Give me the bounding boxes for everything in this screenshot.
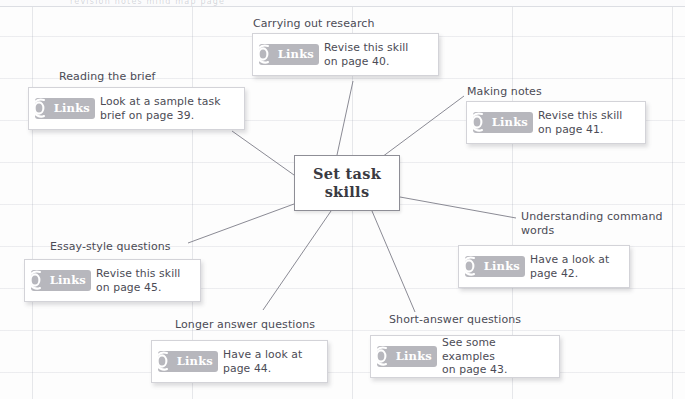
links-badge: Links xyxy=(158,351,218,372)
branch-label-understanding-command-words: Understanding command words xyxy=(521,210,663,238)
branch-label-longer-answer-questions: Longer answer questions xyxy=(175,318,315,332)
links-badge-word: Links xyxy=(492,117,528,129)
links-badge: Links xyxy=(473,112,533,133)
link-card-short-answer-questions[interactable]: Links See some examples on page 43. xyxy=(370,335,560,378)
connector-making-notes xyxy=(382,96,464,157)
links-badge-word: Links xyxy=(278,49,314,61)
mindmap-canvas: revision notes mind map page Set task sk… xyxy=(0,0,685,399)
link-card-longer-answer-questions[interactable]: Links Have a look at page 44. xyxy=(151,340,328,383)
links-badge-word: Links xyxy=(177,356,213,368)
link-card-carrying-out-research[interactable]: Links Revise this skill on page 40. xyxy=(252,33,439,76)
link-card-text: See some examples on page 43. xyxy=(442,336,550,377)
chain-link-icon xyxy=(466,110,492,135)
links-badge: Links xyxy=(31,270,91,291)
branch-label-short-answer-questions: Short-answer questions xyxy=(389,313,521,327)
links-badge: Links xyxy=(465,256,525,277)
central-node[interactable]: Set task skills xyxy=(294,155,400,211)
link-card-text: Look at a sample task brief on page 39. xyxy=(100,95,221,123)
central-node-label: Set task skills xyxy=(295,165,399,201)
connector-understanding-command xyxy=(400,197,516,218)
connector-essay-style-questions xyxy=(188,204,294,243)
links-badge-word: Links xyxy=(396,351,432,363)
connector-carrying-out-research xyxy=(337,81,353,155)
links-badge: Links xyxy=(377,346,437,367)
links-badge-word: Links xyxy=(50,275,86,287)
link-card-understanding-command-words[interactable]: Links Have a look at page 42. xyxy=(458,245,630,288)
link-card-text: Have a look at page 44. xyxy=(223,348,302,376)
chain-link-icon xyxy=(252,42,278,67)
chain-link-icon xyxy=(458,254,484,279)
link-card-text: Revise this skill on page 40. xyxy=(324,41,408,69)
chain-link-icon xyxy=(370,344,396,369)
connector-longer-answer-questions xyxy=(263,211,331,310)
branch-label-making-notes: Making notes xyxy=(467,85,542,99)
link-card-text: Revise this skill on page 45. xyxy=(96,267,180,295)
link-card-text: Have a look at page 42. xyxy=(530,253,609,281)
link-card-text: Revise this skill on page 41. xyxy=(538,109,622,137)
links-badge-word: Links xyxy=(54,103,90,115)
chain-link-icon xyxy=(24,268,50,293)
branch-label-carrying-out-research: Carrying out research xyxy=(253,17,375,31)
branch-label-essay-style-questions: Essay-style questions xyxy=(50,240,171,254)
chain-link-icon xyxy=(151,349,177,374)
link-card-essay-style-questions[interactable]: Links Revise this skill on page 45. xyxy=(24,259,201,302)
connector-short-answer-questions xyxy=(372,211,415,312)
link-card-making-notes[interactable]: Links Revise this skill on page 41. xyxy=(466,101,646,144)
chain-link-icon xyxy=(28,96,54,121)
links-badge: Links xyxy=(35,98,95,119)
link-card-reading-the-brief[interactable]: Links Look at a sample task brief on pag… xyxy=(28,87,245,130)
branch-label-reading-the-brief: Reading the brief xyxy=(59,70,156,84)
connector-reading-the-brief xyxy=(232,131,294,175)
page-top-strip xyxy=(0,0,685,7)
links-badge: Links xyxy=(259,44,319,65)
links-badge-word: Links xyxy=(484,261,520,273)
